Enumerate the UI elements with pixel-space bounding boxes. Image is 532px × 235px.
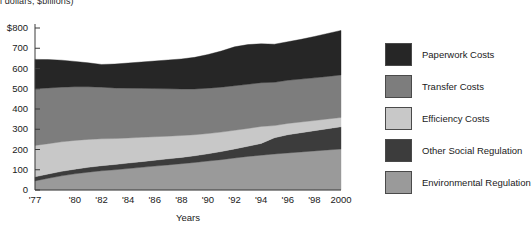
chart-page: l dollars, $billions) 010020030040050060… bbox=[0, 0, 532, 235]
legend-item[interactable]: Environmental Regulation bbox=[385, 166, 532, 198]
y-axis-tick-label: 700 bbox=[0, 43, 28, 53]
y-axis-tick-label: 100 bbox=[0, 165, 28, 175]
y-axis-tick-label: 200 bbox=[0, 145, 28, 155]
x-axis-tick-label: '82 bbox=[87, 195, 117, 205]
legend-label: Transfer Costs bbox=[422, 81, 484, 92]
legend-item[interactable]: Transfer Costs bbox=[385, 70, 532, 102]
legend-label: Other Social Regulation bbox=[422, 145, 522, 156]
legend-swatch-icon bbox=[385, 171, 412, 194]
x-axis-tick-label: '94 bbox=[246, 195, 276, 205]
x-axis-tick-label: '90 bbox=[193, 195, 223, 205]
chart-legend: Paperwork CostsTransfer CostsEfficiency … bbox=[385, 38, 532, 198]
y-axis-tick-label: 0 bbox=[0, 185, 28, 195]
legend-item[interactable]: Other Social Regulation bbox=[385, 134, 532, 166]
y-axis-tick-label: 300 bbox=[0, 124, 28, 134]
y-axis-tick-label: 600 bbox=[0, 64, 28, 74]
legend-swatch-icon bbox=[385, 75, 412, 98]
x-axis-tick-label: '92 bbox=[220, 195, 250, 205]
top-caption: l dollars, $billions) bbox=[0, 0, 74, 6]
y-axis-tick-label: 500 bbox=[0, 84, 28, 94]
x-axis-tick-label: '96 bbox=[273, 195, 303, 205]
legend-swatch-icon bbox=[385, 139, 412, 162]
y-axis-tick-label: 400 bbox=[0, 104, 28, 114]
stacked-area-chart bbox=[0, 10, 372, 210]
x-axis-tick-label: '86 bbox=[140, 195, 170, 205]
plot-area: 0100200300400500600700$800 '77'80'82'84'… bbox=[0, 10, 372, 210]
x-axis-tick-label: 2000 bbox=[326, 195, 356, 205]
y-axis-tick-label: $800 bbox=[0, 23, 28, 33]
legend-item[interactable]: Paperwork Costs bbox=[385, 38, 532, 70]
x-axis-tick-label: '98 bbox=[299, 195, 329, 205]
legend-label: Efficiency Costs bbox=[422, 113, 489, 124]
legend-item[interactable]: Efficiency Costs bbox=[385, 102, 532, 134]
legend-label: Environmental Regulation bbox=[422, 177, 531, 188]
x-axis-tick-label: '84 bbox=[113, 195, 143, 205]
x-axis-title: Years bbox=[0, 212, 376, 223]
legend-swatch-icon bbox=[385, 43, 412, 66]
legend-swatch-icon bbox=[385, 107, 412, 130]
x-axis-tick-label: '77 bbox=[20, 195, 50, 205]
legend-label: Paperwork Costs bbox=[422, 49, 494, 60]
x-axis-tick-label: '80 bbox=[60, 195, 90, 205]
x-axis-tick-label: '88 bbox=[166, 195, 196, 205]
